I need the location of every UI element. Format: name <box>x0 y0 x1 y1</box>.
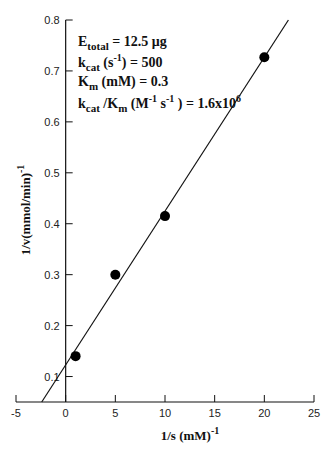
x-tick-label: 25 <box>308 407 320 419</box>
data-point <box>160 211 170 221</box>
y-tick-label: 0.8 <box>44 14 59 26</box>
data-point <box>110 270 120 280</box>
annotation-block: Etotal = 12.5 μg kcat (s-1) = 500 Km (mM… <box>78 34 241 114</box>
y-tick-label: 0.2 <box>44 320 59 332</box>
x-axis-label: 1/s (mM)-1 <box>161 425 220 443</box>
x-tick-label: 5 <box>112 407 118 419</box>
data-point <box>259 52 269 62</box>
x-tick-label: 0 <box>63 407 69 419</box>
annotation-etotal: Etotal = 12.5 μg <box>78 34 167 52</box>
x-tick-label: -5 <box>11 407 21 419</box>
y-axis-label: 1/v(mmol/min)-1 <box>15 165 33 256</box>
lineweaver-burk-chart: -505101520250.10.20.30.40.50.60.70.8 1/s… <box>0 0 334 455</box>
data-point <box>71 351 81 361</box>
y-tick-label: 0.5 <box>44 167 59 179</box>
y-tick-label: 0.6 <box>44 116 59 128</box>
x-tick-label: 10 <box>159 407 171 419</box>
annotation-km: Km (mM) = 0.3 <box>78 74 168 92</box>
x-tick-label: 15 <box>209 407 221 419</box>
annotation-kcat-km: kcat /Km (M-1 s-1 ) = 1.6x106 <box>78 93 241 114</box>
y-tick-label: 0.7 <box>44 65 59 77</box>
y-tick-label: 0.4 <box>44 218 59 230</box>
x-tick-label: 20 <box>258 407 270 419</box>
y-tick-label: 0.3 <box>44 269 59 281</box>
y-tick-label: 0.1 <box>44 371 59 383</box>
annotation-kcat: kcat (s-1) = 500 <box>78 52 162 73</box>
